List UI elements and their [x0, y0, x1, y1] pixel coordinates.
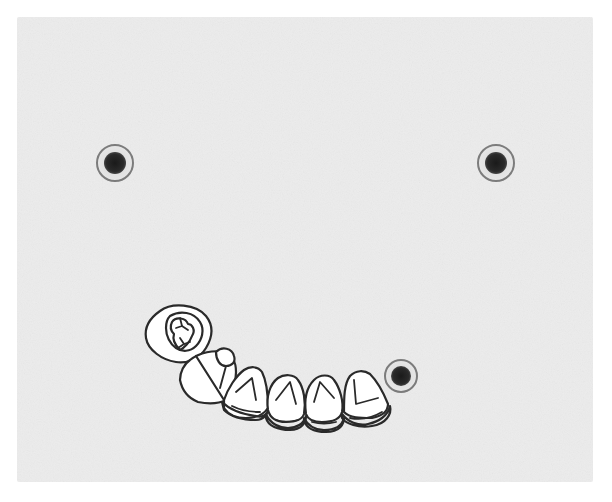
tooth-4 [266, 375, 306, 430]
dental-arch-drawing [0, 0, 612, 502]
tooth-5 [304, 376, 344, 433]
tooth-6 [342, 371, 390, 426]
